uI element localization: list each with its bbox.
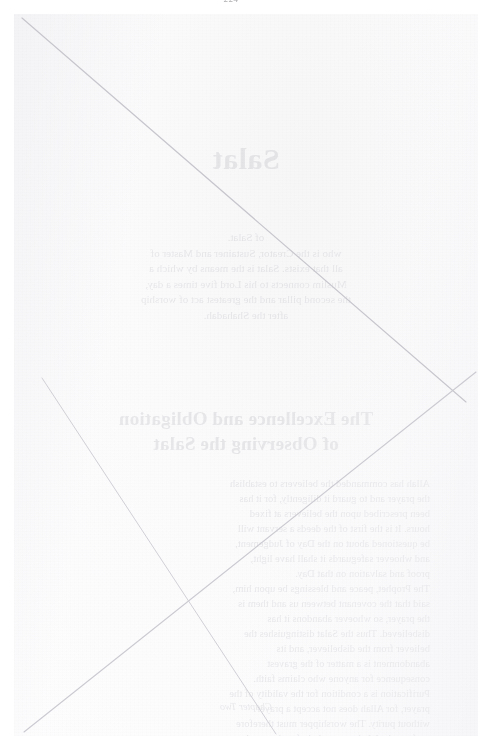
paper-sheet: Salat of Salat. who is the Creator, Sust… [14, 14, 478, 736]
bleedthrough-body: Allah has commanded the believers to est… [60, 476, 430, 736]
scanned-page-canvas: 224 Salat of Salat. who is the Creator, … [0, 0, 489, 752]
bleedthrough-text-layer: Salat of Salat. who is the Creator, Sust… [14, 14, 478, 736]
bleedthrough-caption: Chapter Two [38, 700, 454, 714]
bleedthrough-title: Salat [14, 142, 478, 176]
bleedthrough-heading: The Excellence and Obligation of Observi… [38, 406, 454, 456]
bleedthrough-intro: of Salat. who is the Creator, Sustainer … [66, 230, 426, 323]
page-number-mark: 224 [218, 0, 244, 3]
